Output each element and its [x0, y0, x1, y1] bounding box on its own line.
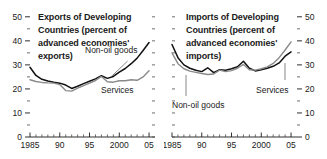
imports-title: Imports of Developing Countries (percent…: [186, 12, 279, 61]
imports-x-tick-labels: 19859095200005: [164, 140, 296, 150]
exports-annotation-non-oil-goods: Non-oil goods: [85, 45, 137, 55]
left-x-tick-05: 05: [144, 140, 154, 150]
exports-chart-svg: Exports of Developing Countries (percent…: [0, 0, 163, 159]
exports-annotation-services-label: Services: [101, 85, 134, 95]
left-y-tick-30: 30: [13, 60, 23, 70]
exports-annotation-non-oil-goods-label: Non-oil goods: [85, 45, 137, 55]
right-y-tick-20: 20: [305, 84, 315, 94]
right-x-tick-05: 05: [286, 140, 296, 150]
exports-annotation-services: Services: [101, 85, 134, 95]
imports-title-line-4: imports): [186, 51, 221, 61]
right-y-tick-0: 0: [305, 132, 310, 142]
right-y-tick-30: 30: [305, 60, 315, 70]
right-x-tick-2000: 2000: [252, 140, 271, 150]
right-x-tick-1985: 1985: [164, 140, 182, 150]
right-y-tick-40: 40: [305, 36, 315, 46]
exports-title-line-4: exports): [38, 51, 73, 61]
exports-y-tick-labels: 01020304050: [13, 12, 23, 142]
left-y-tick-40: 40: [13, 36, 23, 46]
imports-y-tick-labels: 01020304050: [305, 12, 315, 142]
imports-chart-svg: Imports of Developing Countries (percent…: [164, 0, 327, 159]
imports-title-line-2: Countries (percent of: [186, 25, 276, 35]
left-y-tick-50: 50: [13, 12, 23, 22]
right-x-tick-95: 95: [227, 140, 237, 150]
right-y-tick-50: 50: [305, 12, 315, 22]
left-x-tick-95: 95: [85, 140, 95, 150]
exports-title-line-1: Exports of Developing: [38, 12, 131, 22]
left-y-tick-20: 20: [13, 84, 23, 94]
imports-title-line-1: Imports of Developing: [186, 12, 279, 22]
left-x-tick-90: 90: [55, 140, 65, 150]
figure-container: Exports of Developing Countries (percent…: [0, 0, 327, 159]
imports-annotation-services: Services: [256, 63, 289, 95]
imports-annotation-non-oil-goods-label: Non-oil goods: [172, 100, 224, 110]
exports-x-tick-labels: 19859095200005: [21, 140, 155, 150]
right-x-tick-90: 90: [197, 140, 207, 150]
exports-title-line-2: Countries (percent of: [38, 25, 128, 35]
imports-title-line-3: advanced economies': [186, 38, 277, 48]
left-x-tick-2000: 2000: [110, 140, 129, 150]
chart-panel-exports: Exports of Developing Countries (percent…: [0, 0, 163, 159]
right-y-tick-10: 10: [305, 108, 315, 118]
imports-annotation-non-oil-goods: Non-oil goods: [172, 75, 224, 110]
left-y-tick-10: 10: [13, 108, 23, 118]
chart-panel-imports: Imports of Developing Countries (percent…: [164, 0, 327, 159]
imports-annotation-services-label: Services: [256, 85, 289, 95]
left-x-tick-1985: 1985: [21, 140, 40, 150]
